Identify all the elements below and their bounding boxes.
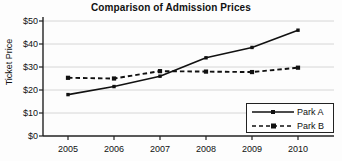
- legend-swatch-solid-line-icon: [252, 105, 294, 119]
- chart-container: Comparison of Admission Prices Ticket Pr…: [0, 0, 342, 161]
- legend-label: Park A: [297, 107, 324, 117]
- data-series-layer: [66, 29, 300, 97]
- data-point-marker: [296, 66, 300, 70]
- series-line: [68, 30, 298, 94]
- legend-item-park-b: Park B: [247, 119, 335, 133]
- legend-label: Park B: [297, 121, 324, 131]
- data-point-marker: [204, 56, 207, 59]
- data-point-marker: [158, 75, 161, 78]
- data-point-marker: [158, 69, 162, 73]
- legend-item-park-a: Park A: [247, 105, 335, 119]
- data-point-marker: [66, 93, 69, 96]
- data-point-marker: [66, 76, 70, 80]
- legend-swatch-dashed-line-icon: [252, 119, 294, 133]
- chart-legend: Park A Park B: [246, 103, 334, 133]
- data-point-marker: [250, 70, 254, 74]
- data-point-marker: [204, 70, 208, 74]
- series-park-a: [66, 29, 299, 97]
- plot-area: [0, 0, 342, 161]
- gridlines: [43, 21, 334, 113]
- data-point-marker: [112, 76, 116, 80]
- series-line: [68, 68, 298, 79]
- data-point-marker: [112, 85, 115, 88]
- data-point-marker: [250, 46, 253, 49]
- data-point-marker: [296, 29, 299, 32]
